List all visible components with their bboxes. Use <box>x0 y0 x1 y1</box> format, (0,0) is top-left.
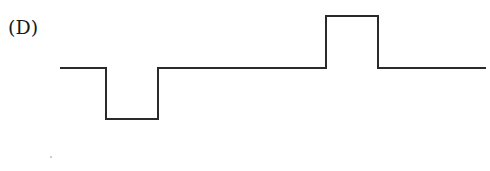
scan-artifact <box>50 156 52 158</box>
waveform-diagram <box>0 0 490 171</box>
square-pulse-waveform <box>60 16 486 119</box>
